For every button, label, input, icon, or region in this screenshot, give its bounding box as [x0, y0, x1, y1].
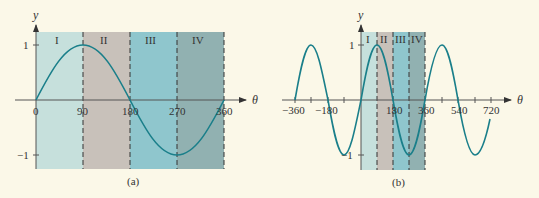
y-tick-minus1: −1	[341, 149, 353, 161]
x-tick-minus180: −180	[315, 104, 338, 116]
x-tick-270: 270	[169, 105, 186, 117]
theta-axis-label: θ	[252, 93, 258, 107]
y-axis-label: y	[32, 8, 39, 22]
quadrant-label-i: I	[366, 33, 370, 45]
caption-a: (a)	[127, 175, 140, 188]
quadrant-label-ii: II	[100, 34, 108, 46]
y-tick-minus1: −1	[17, 149, 29, 161]
x-tick-180: 180	[386, 104, 403, 116]
x-tick-90: 90	[77, 105, 89, 117]
x-tick-540: 540	[451, 104, 468, 116]
chart-panel-a: y θ 1 −1 0 90 180 270 360 I II III IV (a…	[15, 8, 258, 188]
figure: y θ 1 −1 0 90 180 270 360 I II III IV (a…	[0, 0, 539, 198]
x-tick-720: 720	[483, 104, 500, 116]
theta-axis-label: θ	[517, 93, 523, 107]
quadrant-iv-region	[409, 32, 425, 170]
quadrant-label-i: I	[55, 34, 59, 46]
quadrant-label-iv: IV	[192, 34, 204, 46]
quadrant-label-iii: III	[145, 34, 156, 46]
caption-b: (b)	[392, 176, 405, 189]
y-tick-1: 1	[349, 39, 355, 51]
x-tick-minus360: −360	[282, 104, 305, 116]
quadrant-label-ii: II	[380, 33, 388, 45]
quadrant-iii-region	[393, 32, 409, 170]
quadrant-i-region	[361, 32, 377, 170]
y-tick-1: 1	[23, 39, 29, 51]
quadrant-label-iv: IV	[411, 33, 423, 45]
y-axis-label: y	[357, 8, 364, 22]
x-tick-360: 360	[216, 105, 233, 117]
chart-panel-b: y θ 1 −1 −360 −180 180 360 540 720 I II …	[282, 8, 523, 189]
x-tick-360: 360	[418, 104, 435, 116]
quadrant-label-iii: III	[395, 33, 406, 45]
x-tick-0: 0	[33, 105, 39, 117]
quadrant-ii-region	[377, 32, 393, 170]
x-tick-180: 180	[122, 105, 139, 117]
